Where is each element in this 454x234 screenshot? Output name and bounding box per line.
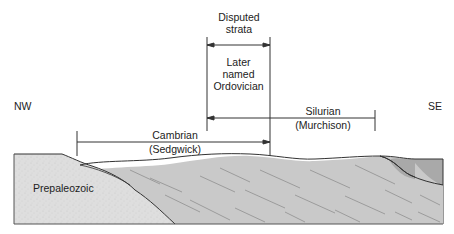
cambrian-line-1: Cambrian [135, 129, 215, 141]
silurian-label: Silurian (Murchison) [283, 105, 363, 131]
disputed-line-1: Disputed [212, 11, 266, 23]
prepaleozoic-label: Prepaleozoic [33, 182, 94, 194]
ordovician-line-2: named [208, 68, 269, 80]
ordovician-line-3: Ordovician [208, 80, 269, 92]
silurian-line-2: (Murchison) [283, 119, 363, 131]
disputed-line-2: strata [212, 23, 266, 35]
cross-section-drawing [0, 0, 454, 234]
orientation-label-nw: NW [14, 100, 32, 112]
disputed-strata-label: Disputed strata [212, 11, 266, 35]
cambrian-label: Cambrian (Sedgwick) [135, 129, 215, 155]
ordovician-line-1: Later [208, 56, 269, 68]
cambrian-line-2: (Sedgwick) [135, 143, 215, 155]
orientation-label-se: SE [428, 100, 442, 112]
range-markers [77, 37, 375, 156]
geologic-cross-section: NW SE Disputed strata Later named Ordovi… [0, 0, 454, 234]
ordovician-label: Later named Ordovician [208, 56, 269, 92]
silurian-line-1: Silurian [283, 105, 363, 117]
